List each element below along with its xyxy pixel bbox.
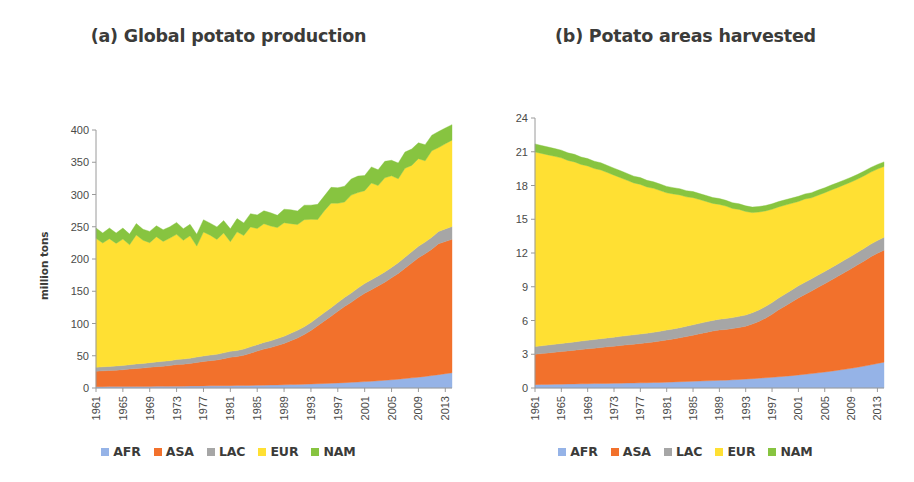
y-tick-label: 50 xyxy=(77,350,89,362)
x-tick-label: 2009 xyxy=(412,396,424,420)
y-tick-label: 21 xyxy=(516,146,528,158)
y-axis-ticks: 050100150200250300350400 xyxy=(71,124,96,394)
x-tick-label: 1969 xyxy=(144,396,156,420)
figure-container: (a) Global potato production 05010015020… xyxy=(0,0,914,482)
y-axis-ticks: 03691215182124 xyxy=(516,112,535,394)
legend-swatch-asa xyxy=(611,448,619,456)
legend-item-asa[interactable]: ASA xyxy=(154,444,194,459)
x-tick-label: 1993 xyxy=(740,396,752,420)
legend-item-afr[interactable]: AFR xyxy=(558,444,598,459)
x-tick-label: 2013 xyxy=(439,396,451,420)
x-tick-label: 1977 xyxy=(197,396,209,420)
legend-label-nam: NAM xyxy=(323,444,355,459)
x-tick-label: 1989 xyxy=(278,396,290,420)
legend-swatch-eur xyxy=(258,448,266,456)
legend-swatch-nam xyxy=(311,448,319,456)
legend-swatch-afr xyxy=(101,448,109,456)
x-tick-label: 1973 xyxy=(608,396,620,420)
panel-b: (b) Potato areas harvested 0369121518212… xyxy=(457,0,914,482)
x-tick-label: 2005 xyxy=(386,396,398,420)
legend-label-afr: AFR xyxy=(570,444,598,459)
x-tick-label: 2001 xyxy=(359,396,371,420)
legend-item-nam[interactable]: NAM xyxy=(768,444,812,459)
y-tick-label: 400 xyxy=(71,124,89,136)
stacked-areas xyxy=(535,144,884,388)
stacked-areas xyxy=(96,125,452,388)
legend-label-lac: LAC xyxy=(219,444,246,459)
x-tick-label: 2013 xyxy=(871,396,883,420)
legend-swatch-asa xyxy=(154,448,162,456)
panel-a-svg: 0501001502002503003504001961196519691973… xyxy=(0,0,457,440)
legend-swatch-eur xyxy=(715,448,723,456)
x-tick-label: 1997 xyxy=(332,396,344,420)
legend-item-asa[interactable]: ASA xyxy=(611,444,651,459)
y-tick-label: 100 xyxy=(71,318,89,330)
y-tick-label: 6 xyxy=(522,315,528,327)
panel-a-legend: AFRASALACEURNAM xyxy=(0,444,457,459)
legend-label-eur: EUR xyxy=(727,444,755,459)
x-tick-label: 1969 xyxy=(582,396,594,420)
legend-label-afr: AFR xyxy=(113,444,141,459)
legend-label-asa: ASA xyxy=(166,444,194,459)
x-tick-label: 1993 xyxy=(305,396,317,420)
y-tick-label: 150 xyxy=(71,285,89,297)
panel-b-svg: 0369121518212419611965196919731977198119… xyxy=(457,0,914,440)
legend-swatch-lac xyxy=(207,448,215,456)
x-tick-label: 1997 xyxy=(766,396,778,420)
panel-a-ylabel: million tons xyxy=(38,232,50,300)
legend-label-eur: EUR xyxy=(270,444,298,459)
y-tick-label: 15 xyxy=(516,213,528,225)
y-tick-label: 18 xyxy=(516,180,528,192)
panel-a: (a) Global potato production 05010015020… xyxy=(0,0,457,482)
x-tick-label: 1965 xyxy=(555,396,567,420)
x-tick-label: 1989 xyxy=(713,396,725,420)
y-tick-label: 300 xyxy=(71,189,89,201)
x-tick-label: 1981 xyxy=(224,396,236,420)
x-tick-label: 1961 xyxy=(90,396,102,420)
legend-label-nam: NAM xyxy=(780,444,812,459)
x-tick-label: 1985 xyxy=(251,396,263,420)
x-tick-label: 1981 xyxy=(661,396,673,420)
legend-item-lac[interactable]: LAC xyxy=(207,444,246,459)
x-tick-label: 1961 xyxy=(529,396,541,420)
legend-label-lac: LAC xyxy=(676,444,703,459)
y-tick-label: 9 xyxy=(522,281,528,293)
legend-item-lac[interactable]: LAC xyxy=(664,444,703,459)
x-tick-label: 1965 xyxy=(117,396,129,420)
y-tick-label: 350 xyxy=(71,156,89,168)
y-tick-label: 24 xyxy=(516,112,528,124)
panel-a-chart: 0501001502002503003504001961196519691973… xyxy=(0,0,457,440)
y-tick-label: 0 xyxy=(522,382,528,394)
legend-item-eur[interactable]: EUR xyxy=(258,444,298,459)
x-tick-label: 1985 xyxy=(687,396,699,420)
x-tick-label: 2005 xyxy=(819,396,831,420)
panel-b-chart: 0369121518212419611965196919731977198119… xyxy=(457,0,914,440)
legend-swatch-afr xyxy=(558,448,566,456)
x-tick-label: 2009 xyxy=(845,396,857,420)
legend-swatch-nam xyxy=(768,448,776,456)
legend-item-eur[interactable]: EUR xyxy=(715,444,755,459)
x-axis-ticks: 1961196519691973197719811985198919931997… xyxy=(529,388,883,420)
y-tick-label: 0 xyxy=(83,382,89,394)
legend-label-asa: ASA xyxy=(623,444,651,459)
x-tick-label: 2001 xyxy=(792,396,804,420)
y-tick-label: 12 xyxy=(516,247,528,259)
legend-swatch-lac xyxy=(664,448,672,456)
legend-item-afr[interactable]: AFR xyxy=(101,444,141,459)
x-tick-label: 1977 xyxy=(634,396,646,420)
y-tick-label: 250 xyxy=(71,221,89,233)
y-tick-label: 3 xyxy=(522,348,528,360)
x-axis-ticks: 1961196519691973197719811985198919931997… xyxy=(90,388,451,420)
x-tick-label: 1973 xyxy=(171,396,183,420)
y-tick-label: 200 xyxy=(71,253,89,265)
legend-item-nam[interactable]: NAM xyxy=(311,444,355,459)
panel-b-legend: AFRASALACEURNAM xyxy=(457,444,914,459)
